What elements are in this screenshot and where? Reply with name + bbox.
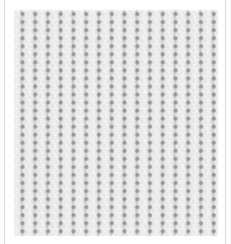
fabric-texture-image — [14, 10, 218, 236]
fabric-edge — [14, 10, 218, 236]
